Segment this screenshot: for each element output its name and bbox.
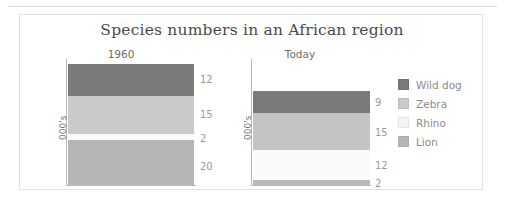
legend-item-zebra: Zebra [398,94,484,113]
value-label-rhino-1960: 2 [200,133,206,144]
legend-item-rhino: Rhino [398,113,484,132]
legend-swatch-wild-dog-icon [398,79,409,90]
bar-segment-wild-dog-today [253,91,370,113]
stacked-bar-today [253,91,370,185]
bar-segment-zebra-today [253,113,370,150]
y-axis-label-today: 000's [243,116,253,140]
stacked-bar-1960 [68,64,194,185]
panel-title-today: Today [235,48,365,60]
figure-container: Species numbers in an African region 196… [19,14,483,190]
chart-legend: Wild dog Zebra Rhino Lion [398,75,484,151]
legend-label-zebra: Zebra [416,98,447,110]
bar-segment-zebra-1960 [68,96,194,134]
bar-segment-lion-1960 [68,140,194,185]
panel-title-1960: 1960 [46,48,196,60]
chart-panel-1960: 1960 000's 12 15 2 20 [40,15,225,191]
legend-item-lion: Lion [398,132,484,151]
legend-label-rhino: Rhino [416,117,446,129]
x-axis-line-today [251,185,371,186]
value-label-zebra-today: 15 [375,127,388,138]
top-divider [8,6,497,7]
legend-label-wild-dog: Wild dog [416,79,462,91]
bar-segment-rhino-today [253,150,370,180]
legend-swatch-zebra-icon [398,98,409,109]
value-label-wild-dog-today: 9 [375,97,381,108]
bar-segment-lion-today [253,180,370,185]
x-axis-line-1960 [66,185,196,186]
value-label-lion-today: 2 [375,178,381,189]
value-label-rhino-today: 12 [375,160,388,171]
legend-label-lion: Lion [416,136,438,148]
legend-swatch-rhino-icon [398,117,409,128]
value-label-wild-dog-1960: 12 [200,74,213,85]
legend-swatch-lion-icon [398,136,409,147]
chart-panel-today: Today 000's 9 15 12 2 [225,15,390,191]
legend-item-wild-dog: Wild dog [398,75,484,94]
bar-segment-wild-dog-1960 [68,64,194,96]
value-label-lion-1960: 20 [200,161,213,172]
value-label-zebra-1960: 15 [200,109,213,120]
y-axis-label-1960: 000's [58,116,68,140]
